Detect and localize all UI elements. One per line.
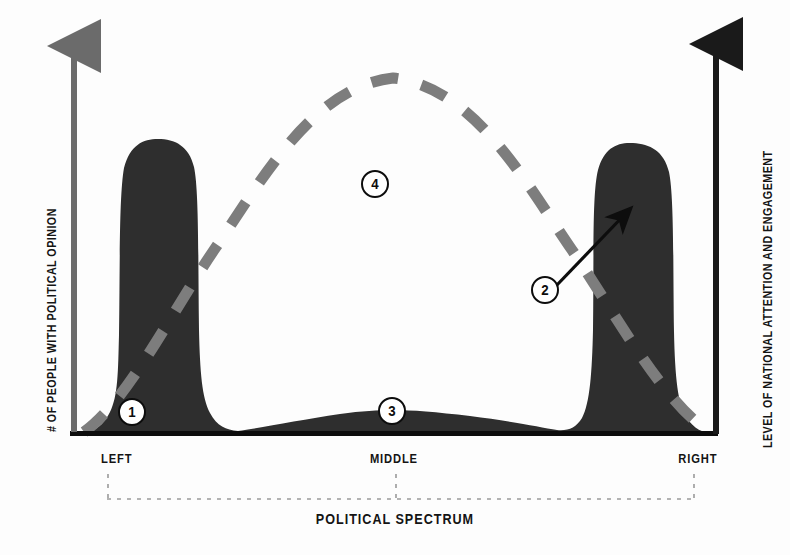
x-tick-right: RIGHT [678,451,717,466]
chart-graphics [0,0,790,555]
x-axis-title: POLITICAL SPECTRUM [0,511,790,527]
annotation-marker-3-label: 3 [388,404,395,418]
y-axis-left-label: # OF PEOPLE WITH POLITICAL OPINION [44,208,59,432]
distribution-area [72,139,714,434]
y-axis-right-label: LEVEL OF NATIONAL ATTENTION AND ENGAGEME… [760,151,775,448]
annotation-marker-1: 1 [118,398,146,426]
annotation-marker-4: 4 [361,170,389,198]
annotation-marker-3: 3 [378,397,406,425]
baseline-axis [70,431,718,436]
chart-canvas: # OF PEOPLE WITH POLITICAL OPINION LEVEL… [0,0,790,555]
spectrum-bracket [107,474,695,499]
annotation-marker-4-label: 4 [371,177,378,191]
annotation-marker-2: 2 [531,276,559,304]
x-tick-middle: MIDDLE [370,451,418,466]
annotation-marker-2-label: 2 [541,283,548,297]
annotation-marker-1-label: 1 [128,405,135,419]
x-tick-left: LEFT [101,451,132,466]
x-axis-title-text: POLITICAL SPECTRUM [316,511,474,527]
